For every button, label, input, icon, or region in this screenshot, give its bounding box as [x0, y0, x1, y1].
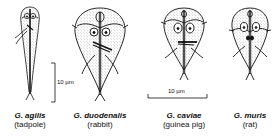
horizontal-scale-label: 10 µm	[168, 88, 185, 95]
g-caviae-drawing	[161, 8, 207, 80]
host-name: (rat)	[215, 120, 280, 129]
species-name: G. agilis	[0, 111, 65, 120]
species-name: G. duodenalis	[65, 111, 135, 120]
species-name: G. caviae	[149, 111, 219, 120]
caption-g-caviae: G. caviae (guinea pig)	[149, 111, 219, 129]
g-muris-drawing	[229, 8, 271, 80]
species-name: G. muris	[215, 111, 280, 120]
host-name: (guinea pig)	[149, 120, 219, 129]
caption-g-muris: G. muris (rat)	[215, 111, 280, 129]
host-name: (rabbit)	[65, 120, 135, 129]
vertical-scale-bar	[51, 63, 55, 102]
caption-g-duodenalis: G. duodenalis (rabbit)	[65, 111, 135, 129]
g-duodenalis-drawing	[72, 8, 128, 101]
host-name: (tadpole)	[0, 120, 65, 129]
vertical-scale-label: 10 µm	[57, 79, 74, 86]
caption-g-agilis: G. agilis (tadpole)	[0, 111, 65, 129]
g-agilis-drawing	[15, 7, 39, 100]
